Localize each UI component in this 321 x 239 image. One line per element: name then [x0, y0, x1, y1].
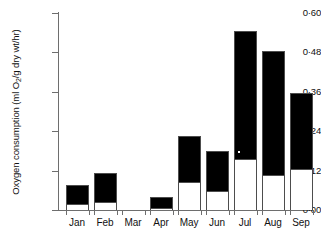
bar-lower-jan — [66, 204, 89, 210]
bar-lower-sep — [290, 169, 313, 210]
x-tick-mark — [94, 210, 95, 215]
speck-artifact — [238, 151, 240, 153]
x-tick-label-sep: Sep — [281, 217, 321, 229]
bar-lower-jun — [206, 191, 229, 210]
y-tick-mark — [52, 171, 58, 172]
x-tick-mark — [285, 210, 286, 215]
y-axis-title-post: /g dry wt/hr) — [10, 29, 21, 78]
x-tick-mark — [313, 210, 314, 215]
x-tick-mark — [66, 210, 67, 215]
x-tick-mark — [150, 210, 151, 215]
y-axis-line — [58, 12, 59, 211]
x-tick-mark — [201, 210, 202, 215]
x-tick-mark — [145, 210, 146, 215]
x-tick-mark — [178, 210, 179, 215]
bar-lower-aug — [262, 175, 285, 210]
x-tick-mark — [257, 210, 258, 215]
oxygen-consumption-bar-chart: Oxygen consumption (ml O2/g dry wt/hr) 0… — [0, 0, 321, 239]
y-axis-title-subscript: 2 — [15, 78, 22, 82]
y-axis-title: Oxygen consumption (ml O2/g dry wt/hr) — [10, 12, 22, 212]
x-tick-mark — [290, 210, 291, 215]
x-tick-mark — [122, 210, 123, 215]
x-tick-mark — [173, 210, 174, 215]
bar-lower-jul — [234, 159, 257, 210]
y-tick-label: 0·60 — [273, 8, 321, 18]
y-tick-mark — [52, 92, 58, 93]
x-tick-mark — [89, 210, 90, 215]
bar-lower-may — [178, 182, 201, 210]
y-tick-mark — [52, 52, 58, 53]
bar-lower-apr — [150, 208, 173, 210]
x-tick-mark — [262, 210, 263, 215]
bar-lower-feb — [94, 202, 117, 210]
y-axis-title-pre: Oxygen consumption (ml O — [10, 82, 21, 195]
x-tick-mark — [234, 210, 235, 215]
x-tick-mark — [117, 210, 118, 215]
x-tick-mark — [206, 210, 207, 215]
y-tick-mark — [52, 210, 58, 211]
x-tick-mark — [229, 210, 230, 215]
y-tick-mark — [52, 131, 58, 132]
y-tick-mark — [52, 13, 58, 14]
